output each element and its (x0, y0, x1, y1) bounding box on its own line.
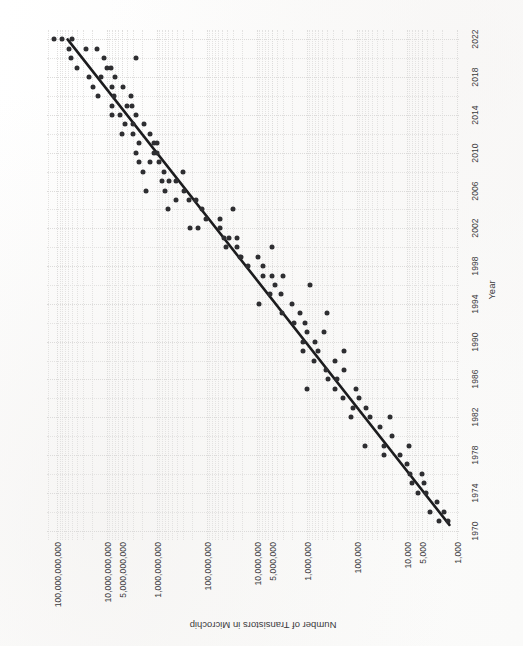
data-point (141, 169, 146, 174)
data-point (377, 424, 382, 429)
y-axis-tick-label: 100,000 (353, 542, 363, 573)
data-point (143, 188, 148, 193)
data-point (187, 226, 192, 231)
x-axis-tick-label: 2006 (470, 181, 480, 200)
data-point (174, 198, 179, 203)
data-point (129, 103, 134, 108)
data-point (129, 94, 134, 99)
y-axis-tick-label: 100,000,000 (203, 542, 213, 590)
y-axis-tick-label: 1,000,000 (303, 542, 313, 581)
data-point (316, 349, 321, 354)
data-point (301, 349, 306, 354)
data-point (67, 46, 72, 51)
data-point (353, 386, 358, 391)
data-point (342, 349, 347, 354)
x-axis-tick-labels: 1970197419781982198619901994199820022006… (462, 0, 520, 600)
data-point (281, 273, 286, 278)
data-point (161, 169, 166, 174)
y-axis-tick-label: 5,000,000,000 (118, 542, 128, 598)
data-point (70, 37, 75, 42)
data-point (436, 519, 441, 524)
data-point (424, 490, 429, 495)
data-point (340, 396, 345, 401)
data-point (387, 415, 392, 420)
data-point (60, 37, 65, 42)
data-point (75, 65, 80, 70)
data-point (218, 216, 223, 221)
data-point (52, 37, 57, 42)
data-point (84, 46, 89, 51)
data-point (389, 434, 394, 439)
data-point (160, 179, 165, 184)
x-axis-title: Year (486, 280, 497, 299)
data-point (123, 122, 128, 127)
data-point (226, 235, 231, 240)
data-point (442, 509, 447, 514)
data-point (246, 264, 251, 269)
data-point (415, 490, 420, 495)
data-point (267, 292, 272, 297)
data-point (270, 245, 275, 250)
data-point (273, 283, 278, 288)
data-point (256, 301, 261, 306)
data-point (304, 386, 309, 391)
data-point (332, 386, 337, 391)
scatter-plot-area (47, 30, 459, 540)
data-point (223, 245, 228, 250)
y-axis-tick-label: 1,000,000,000 (153, 542, 163, 598)
data-point (407, 443, 412, 448)
data-point (348, 415, 353, 420)
y-axis-tick-label: 10,000,000 (253, 542, 263, 586)
data-point (408, 471, 413, 476)
y-axis-tick-label: 10,000,000,000 (103, 542, 113, 603)
data-point (364, 405, 369, 410)
data-point (134, 113, 139, 118)
data-point (419, 471, 424, 476)
data-point (121, 84, 126, 89)
data-point (137, 160, 142, 165)
data-point (193, 198, 198, 203)
data-point (312, 339, 317, 344)
data-point (186, 198, 191, 203)
data-point (101, 56, 106, 61)
y-axis-title: Number of Transistors in Microchip (118, 620, 408, 631)
x-axis-tick-label: 1998 (470, 256, 480, 275)
data-point (279, 292, 284, 297)
data-point (261, 273, 266, 278)
data-point (445, 519, 450, 524)
data-point (324, 311, 329, 316)
data-point (99, 75, 104, 80)
data-point (323, 368, 328, 373)
x-axis-tick-label: 1978 (470, 445, 480, 464)
data-point (195, 226, 200, 231)
data-point (112, 94, 117, 99)
data-point (110, 84, 115, 89)
data-point (163, 188, 168, 193)
data-point (302, 320, 307, 325)
data-point (166, 179, 171, 184)
data-point (204, 216, 209, 221)
data-point (422, 481, 427, 486)
data-point (304, 330, 309, 335)
data-point (289, 301, 294, 306)
data-point (297, 311, 302, 316)
data-point (357, 396, 362, 401)
y-axis-tick-label: 10,000 (403, 542, 413, 569)
data-point (181, 169, 186, 174)
data-point (292, 320, 297, 325)
y-axis-tick-labels: 1,0005,00010,000100,0001,000,0005,000,00… (0, 540, 470, 602)
data-point (332, 358, 337, 363)
data-point (218, 226, 223, 231)
data-point (300, 339, 305, 344)
data-point (113, 75, 118, 80)
x-axis-tick-label: 1982 (470, 408, 480, 427)
data-point (117, 113, 122, 118)
data-point (434, 500, 439, 505)
data-point (409, 481, 414, 486)
x-axis-tick-label: 2002 (470, 219, 480, 238)
x-axis-tick-label: 2018 (470, 68, 480, 87)
data-point (397, 453, 402, 458)
data-point (235, 245, 240, 250)
data-point (427, 509, 432, 514)
data-point (110, 103, 115, 108)
